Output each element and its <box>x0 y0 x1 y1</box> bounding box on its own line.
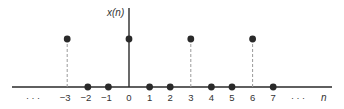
tick-label: 6 <box>250 92 255 103</box>
tick-label: 5 <box>229 92 234 103</box>
stems <box>64 36 277 91</box>
stem-dot <box>208 84 215 91</box>
tick-label: −1 <box>101 92 112 103</box>
stem-dot <box>126 36 133 43</box>
stem-dot <box>146 84 153 91</box>
tick-label: 4 <box>209 92 214 103</box>
x-axis-label: n <box>321 92 327 103</box>
stem-dot <box>64 36 71 43</box>
stem-dot <box>105 84 112 91</box>
stem-dot <box>187 36 194 43</box>
tick-label: 0 <box>126 92 131 103</box>
stem-dot <box>84 84 91 91</box>
y-axis-label: x(n) <box>106 7 124 18</box>
stem-plot: x(n) n · · · · · · −3−2−101234567 <box>0 0 344 109</box>
stem-dot <box>249 36 256 43</box>
left-ellipsis: · · · <box>26 93 40 103</box>
tick-label: 7 <box>271 92 276 103</box>
right-ellipsis: · · · <box>291 93 305 103</box>
tick-label: −3 <box>60 92 71 103</box>
tick-label: 1 <box>147 92 152 103</box>
tick-labels: −3−2−101234567 <box>60 92 276 103</box>
tick-label: 2 <box>168 92 173 103</box>
tick-label: 3 <box>188 92 193 103</box>
stem-dot <box>167 84 174 91</box>
stem-dot <box>270 84 277 91</box>
stem-dot <box>229 84 236 91</box>
tick-label: −2 <box>80 92 91 103</box>
